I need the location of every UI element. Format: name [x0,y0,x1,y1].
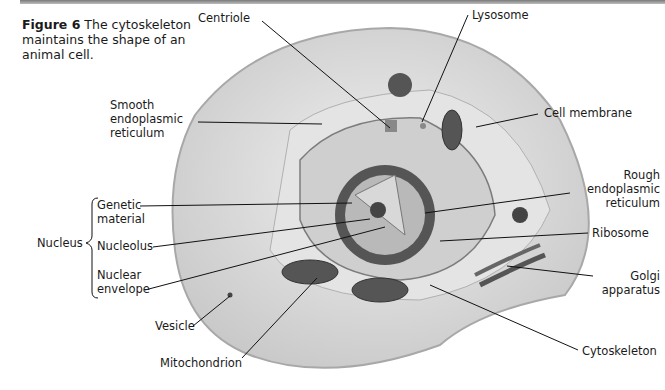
label-cytoskeleton: Cytoskeleton [582,344,657,358]
nucleolus-shape [370,202,386,218]
label-vesicle: Vesicle [155,319,195,333]
label-centriole: Centriole [198,11,250,25]
label-lysosome: Lysosome [472,8,529,22]
label-mitochondrion: Mitochondrion [160,356,242,370]
label-genetic-material: Genetic material [97,198,145,226]
label-nucleus: Nucleus [37,236,83,250]
label-rough-er: Rough endoplasmic reticulum [570,168,660,210]
label-smooth-er: Smooth endoplasmic reticulum [110,98,195,140]
cell-illustration [0,0,665,390]
label-ribosome: Ribosome [592,226,649,240]
label-nuclear-envelope: Nuclear envelope [97,268,150,296]
label-nucleolus: Nucleolus [97,239,153,253]
label-cell-membrane: Cell membrane [544,106,632,120]
label-golgi: Golgi apparatus [595,269,660,297]
